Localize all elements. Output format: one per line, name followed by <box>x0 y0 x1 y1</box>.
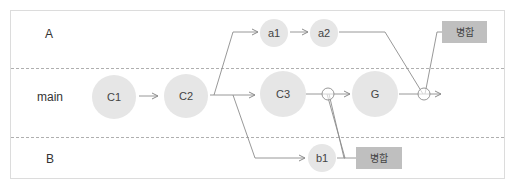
svg-text:a1: a1 <box>268 27 280 39</box>
lane-label-a: A <box>45 27 53 41</box>
commit-node-g: G <box>352 71 398 117</box>
svg-text:G: G <box>371 88 380 100</box>
commit-node-a1: a1 <box>260 19 288 47</box>
commit-node-c2: C2 <box>164 74 208 118</box>
lane-label-main: main <box>37 90 63 104</box>
commit-node-b1: b1 <box>308 144 336 172</box>
merge-tag-bottom: 병합 <box>356 147 402 169</box>
merge-tag-top: 병합 <box>442 21 487 43</box>
svg-text:b1: b1 <box>316 152 328 164</box>
commit-node-a2: a2 <box>310 19 338 47</box>
svg-text:a2: a2 <box>318 27 330 39</box>
merge-point-b1 <box>322 88 334 100</box>
merge-point-a2 <box>418 88 430 100</box>
commit-node-c3: C3 <box>260 71 306 117</box>
svg-text:C3: C3 <box>276 88 290 100</box>
svg-text:C2: C2 <box>179 90 193 102</box>
svg-text:병합: 병합 <box>456 27 474 38</box>
branch-diagram: A main B C1 C2 C3 <box>0 0 516 187</box>
svg-text:C1: C1 <box>107 91 121 103</box>
commit-node-c1: C1 <box>92 75 136 119</box>
svg-text:병합: 병합 <box>370 153 388 164</box>
lane-label-b: B <box>46 152 54 166</box>
